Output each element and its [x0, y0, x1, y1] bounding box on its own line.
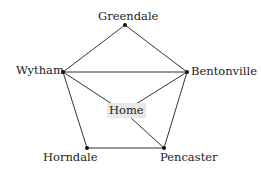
edge-wytham-home	[63, 72, 112, 104]
edge-wytham-horndale	[63, 72, 87, 148]
graph-edges	[0, 0, 261, 172]
node-label-bentonville: Bentonville	[191, 65, 257, 78]
edge-bentonville-pencaster	[164, 72, 187, 148]
node-label-greendale: Greendale	[98, 10, 158, 23]
edge-home-pencaster	[130, 117, 164, 148]
edge-greendale-bentonville	[125, 25, 187, 72]
node-dot-bentonville	[185, 70, 189, 74]
graph-diagram: Greendale Wytham Bentonville Horndale Pe…	[0, 0, 261, 172]
node-label-wytham: Wytham	[16, 64, 64, 77]
node-label-home: Home	[107, 103, 146, 118]
node-label-pencaster: Pencaster	[160, 151, 218, 164]
node-label-horndale: Horndale	[43, 151, 98, 164]
edge-bentonville-home	[136, 72, 187, 104]
edge-greendale-wytham	[63, 25, 125, 72]
node-dot-greendale	[123, 23, 127, 27]
